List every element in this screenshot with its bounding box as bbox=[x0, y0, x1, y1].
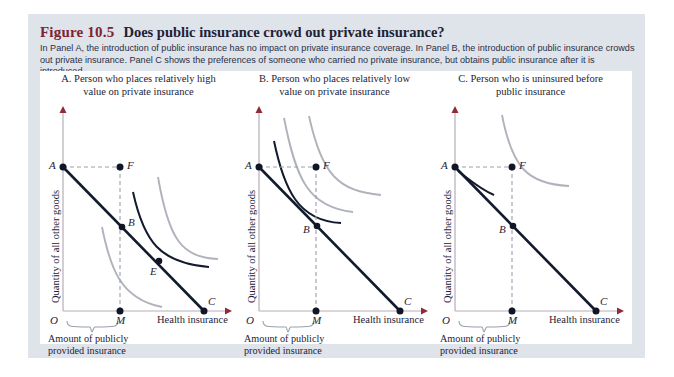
panel-a-y-axis-label: Quantity of all other goods bbox=[50, 190, 61, 303]
panel-c: C. Person who is uninsured before public… bbox=[432, 71, 629, 344]
panel-a-point-B bbox=[119, 224, 126, 231]
panel-b-y-axis-label: Quantity of all other goods bbox=[246, 190, 257, 303]
panel-c-label-B: B bbox=[499, 223, 506, 235]
panel-a: A. Person who places relatively high val… bbox=[40, 71, 237, 344]
panel-c-label-A: A bbox=[441, 159, 448, 171]
figure-outer-panel: Figure 10.5Does public insurance crowd o… bbox=[28, 14, 645, 358]
panel-a-brace bbox=[67, 321, 118, 332]
panel-b-brace bbox=[263, 321, 314, 332]
panel-a-label-F: F bbox=[127, 159, 134, 171]
panel-a-label-M: M bbox=[116, 314, 125, 326]
panel-b-brace-line2: provided insurance bbox=[244, 345, 322, 356]
panel-c-origin-label: O bbox=[442, 314, 450, 326]
panel-c-label-F: F bbox=[519, 159, 526, 171]
panel-a-label-E: E bbox=[150, 265, 157, 277]
panel-a-point-F bbox=[117, 164, 124, 171]
panel-a-brace-caption: Amount of publicly provided insurance bbox=[48, 333, 128, 357]
panel-c-y-axis-label: Quantity of all other goods bbox=[442, 190, 453, 303]
panel-c-label-C: C bbox=[600, 295, 607, 307]
panels-container: A. Person who places relatively high val… bbox=[40, 71, 632, 344]
panel-b-label-A: A bbox=[245, 159, 252, 171]
figure-number: Figure 10.5 bbox=[40, 24, 114, 40]
panel-b-label-F: F bbox=[323, 159, 330, 171]
panel-a-label-B: B bbox=[128, 216, 135, 228]
panel-a-brace-line1: Amount of publicly bbox=[48, 333, 128, 344]
panel-a-gray-curve-upper bbox=[158, 177, 218, 259]
figure-header: Figure 10.5Does public insurance crowd o… bbox=[40, 24, 638, 78]
panel-b-point-A bbox=[256, 164, 263, 171]
figure-title: Figure 10.5Does public insurance crowd o… bbox=[40, 24, 638, 41]
panel-c-point-F bbox=[509, 164, 516, 171]
panel-c-budget-line bbox=[455, 167, 596, 311]
panel-b-budget-line bbox=[259, 167, 400, 311]
figure-plot-area: A. Person who places relatively high val… bbox=[40, 71, 632, 344]
panel-b-gray-curve-upper bbox=[309, 116, 381, 195]
panel-b-label-M: M bbox=[312, 314, 321, 326]
panel-a-budget-line bbox=[63, 167, 204, 311]
panel-a-origin-label: O bbox=[50, 314, 58, 326]
panel-c-label-M: M bbox=[508, 314, 517, 326]
panel-c-x-axis-label: Health insurance bbox=[549, 314, 620, 325]
panel-c-brace-caption: Amount of publicly provided insurance bbox=[440, 333, 520, 357]
panel-a-brace-line2: provided insurance bbox=[48, 345, 126, 356]
panel-c-brace-line2: provided insurance bbox=[440, 345, 518, 356]
panel-b-brace-caption: Amount of publicly provided insurance bbox=[244, 333, 324, 357]
panel-a-label-A: A bbox=[49, 159, 56, 171]
panel-b: B. Person who places relatively low valu… bbox=[236, 71, 433, 344]
panel-b-label-C: C bbox=[404, 295, 411, 307]
panel-a-point-E bbox=[156, 258, 163, 265]
figure-root: Figure 10.5Does public insurance crowd o… bbox=[0, 0, 674, 377]
panel-c-brace bbox=[459, 321, 510, 332]
panel-c-brace-line1: Amount of publicly bbox=[440, 333, 520, 344]
panel-b-x-axis-label: Health insurance bbox=[353, 314, 424, 325]
panel-b-point-B bbox=[314, 223, 321, 230]
figure-question: Does public insurance crowd out private … bbox=[123, 24, 444, 40]
panel-b-label-B: B bbox=[303, 223, 310, 235]
panel-a-point-A bbox=[60, 164, 67, 171]
panel-b-origin-label: O bbox=[246, 314, 254, 326]
panel-b-point-F bbox=[313, 164, 320, 171]
panel-b-brace-line1: Amount of publicly bbox=[244, 333, 324, 344]
panel-b-indifference-curve bbox=[274, 141, 341, 223]
panel-a-label-C: C bbox=[208, 295, 215, 307]
panel-c-point-B bbox=[510, 223, 517, 230]
panel-c-point-A bbox=[452, 164, 459, 171]
panel-a-x-axis-label: Health insurance bbox=[157, 314, 228, 325]
